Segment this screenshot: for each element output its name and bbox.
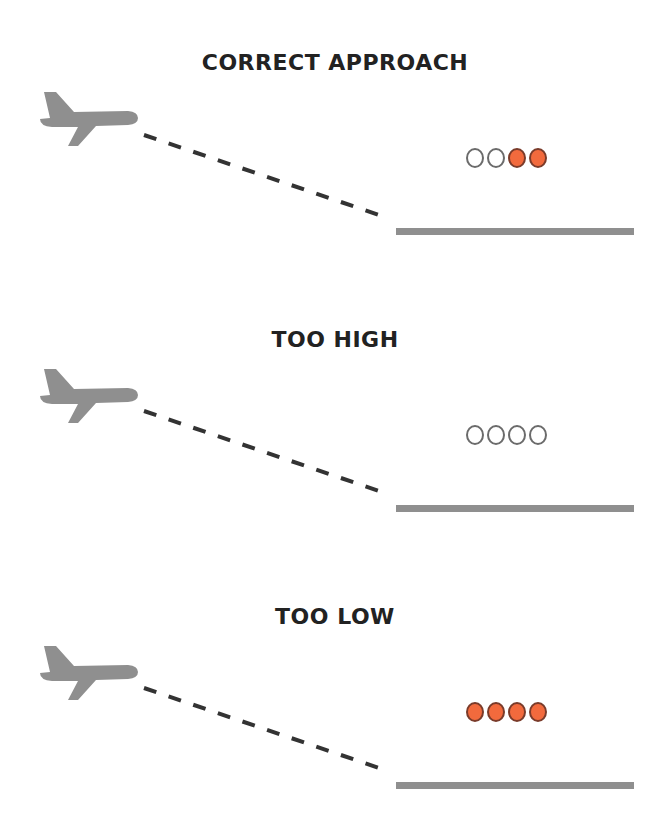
papi-light-white bbox=[466, 148, 484, 168]
papi-light-red bbox=[508, 148, 526, 168]
runway bbox=[396, 782, 634, 789]
panel-correct-approach: CORRECT APPROACH bbox=[0, 0, 670, 276]
panel-too-low: TOO LOW bbox=[0, 554, 670, 830]
papi-light-white bbox=[508, 425, 526, 445]
runway bbox=[396, 505, 634, 512]
papi-light-red bbox=[508, 702, 526, 722]
papi-lights bbox=[466, 425, 547, 445]
papi-light-white bbox=[487, 148, 505, 168]
papi-light-red bbox=[487, 702, 505, 722]
papi-light-white bbox=[466, 425, 484, 445]
papi-light-red bbox=[529, 702, 547, 722]
papi-light-white bbox=[529, 425, 547, 445]
runway bbox=[396, 228, 634, 235]
papi-lights bbox=[466, 148, 547, 168]
panel-too-high: TOO HIGH bbox=[0, 277, 670, 553]
papi-light-white bbox=[487, 425, 505, 445]
papi-light-red bbox=[529, 148, 547, 168]
papi-light-red bbox=[466, 702, 484, 722]
papi-lights bbox=[466, 702, 547, 722]
